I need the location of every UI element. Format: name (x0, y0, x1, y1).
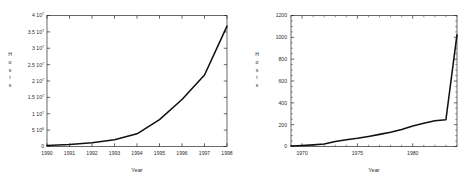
left-y-axis-title-letter: t (9, 74, 11, 80)
right-y-axis-title-letter: o (256, 59, 259, 65)
left-y-tick-label: 2.5 107 (28, 62, 44, 68)
right-x-tick-label: 1980 (407, 150, 418, 156)
right-y-axis-title-letter: H (255, 51, 259, 57)
figure-row: 4 1073.5 1073 1072.5 1072 1071.5 1071 10… (0, 0, 469, 182)
left-y-axis-title-letter: o (9, 59, 12, 65)
left-y-tick-label: 3 107 (32, 45, 44, 51)
left-x-tick-label: 1990 (41, 150, 52, 156)
left-y-axis-title: Hosts (8, 51, 12, 88)
right-y-tick-label: 400 (279, 100, 288, 106)
right-chart-svg: 120010008006004002000 Hosts 197019751980… (235, 0, 469, 182)
left-y-tick-label: 1.5 107 (28, 94, 44, 100)
right-y-axis-title-letter: s (256, 82, 259, 88)
left-x-axis-title: Year (131, 167, 142, 173)
chart-panel-right: 120010008006004002000 Hosts 197019751980… (235, 0, 469, 182)
left-x-tick-label: 1992 (86, 150, 97, 156)
right-y-tick-label: 800 (279, 56, 288, 62)
right-y-tick-label: 600 (279, 78, 288, 84)
left-x-tick-label: 1993 (109, 150, 120, 156)
left-y-tick-label: 5 106 (32, 127, 44, 133)
right-y-tick-labels: 120010008006004002000 (276, 12, 288, 149)
right-axis-ticks (291, 16, 457, 147)
right-y-axis-title-letter: s (256, 67, 259, 73)
left-x-tick-labels: 199019911992199319941995199619971998 (41, 150, 232, 156)
left-x-tick-label: 1997 (199, 150, 210, 156)
chart-panel-left: 4 1073.5 1073 1072.5 1072 1071.5 1071 10… (0, 0, 235, 182)
left-x-tick-label: 1994 (131, 150, 142, 156)
left-y-tick-labels: 4 1073.5 1073 1072.5 1072 1071.5 1071 10… (28, 12, 44, 149)
left-y-tick-label: 0 (41, 143, 44, 149)
right-data-series (291, 35, 457, 146)
left-y-axis-title-letter: s (9, 82, 12, 88)
right-plot-frame (291, 16, 457, 147)
left-y-axis-title-letter: H (8, 51, 12, 57)
right-y-tick-label: 200 (279, 122, 288, 128)
left-y-tick-label: 3.5 107 (28, 29, 44, 35)
left-y-tick-label: 4 107 (32, 12, 44, 18)
right-y-axis-title-letter: t (256, 74, 258, 80)
right-y-tick-label: 1200 (276, 12, 287, 18)
left-x-tick-label: 1991 (64, 150, 75, 156)
left-y-tick-label: 1 107 (32, 111, 44, 117)
right-x-tick-labels: 197019751980 (296, 150, 418, 156)
left-y-axis-title-letter: s (9, 67, 12, 73)
left-x-tick-label: 1996 (176, 150, 187, 156)
left-data-series (47, 26, 227, 145)
left-y-tick-label: 2 107 (32, 78, 44, 84)
right-y-tick-label: 0 (284, 143, 287, 149)
right-x-tick-label: 1975 (352, 150, 363, 156)
right-x-axis-title: Year (368, 167, 379, 173)
left-chart-svg: 4 1073.5 1073 1072.5 1072 1071.5 1071 10… (0, 0, 235, 182)
left-x-tick-label: 1995 (154, 150, 165, 156)
right-y-tick-label: 1000 (276, 34, 287, 40)
right-x-tick-label: 1970 (296, 150, 307, 156)
right-y-axis-title: Hosts (255, 51, 259, 88)
left-x-tick-label: 1998 (221, 150, 232, 156)
